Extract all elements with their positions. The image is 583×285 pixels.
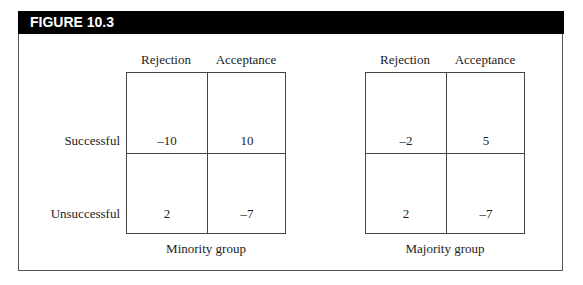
cell: –7	[207, 206, 287, 222]
col-label-acceptance: Acceptance	[445, 52, 525, 68]
minority-caption: Minority group	[126, 241, 286, 257]
cell: 2	[366, 206, 446, 222]
row-label-unsuccessful: Unsuccessful	[20, 206, 120, 222]
cell: 2	[127, 206, 207, 222]
cell: 5	[446, 133, 526, 149]
col-label-acceptance: Acceptance	[206, 52, 286, 68]
minority-matrix: –10 10 2 –7	[126, 72, 286, 234]
cell: –2	[366, 133, 446, 149]
cell: –10	[127, 133, 207, 149]
row-label-successful: Successful	[20, 133, 120, 149]
figure-header: FIGURE 10.3	[18, 11, 564, 34]
majority-matrix: –2 5 2 –7	[365, 72, 525, 234]
figure-title: FIGURE 10.3	[30, 14, 114, 30]
cell: –7	[446, 206, 526, 222]
cell: 10	[207, 133, 287, 149]
col-label-rejection: Rejection	[126, 52, 206, 68]
col-label-rejection: Rejection	[365, 52, 445, 68]
majority-caption: Majority group	[365, 241, 525, 257]
